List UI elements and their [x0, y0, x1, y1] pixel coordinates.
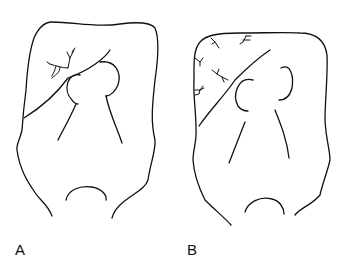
- panel-label-b: B: [187, 241, 197, 258]
- panel-a-drawing: [17, 22, 158, 218]
- panel-label-a: A: [15, 241, 25, 258]
- figure: A B: [0, 0, 342, 271]
- diagram-drawing: [0, 0, 342, 271]
- panel-b-drawing: [193, 33, 330, 225]
